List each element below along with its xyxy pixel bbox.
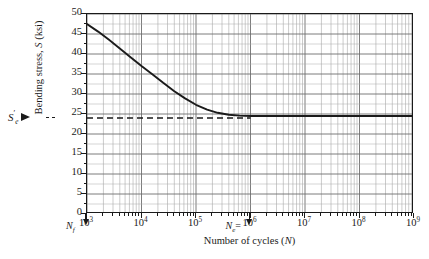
x-tick-exponent: 7 [307, 216, 311, 224]
x-axis-minor-tick-mark [135, 213, 136, 216]
x-axis-minor-tick-mark [237, 213, 238, 216]
x-axis-minor-tick-mark [385, 213, 386, 216]
x-axis-minor-tick-mark [320, 213, 321, 216]
chart-figure: 05101520253035404550 Bending stress, S (… [0, 0, 429, 259]
x-tick-mantissa: 10 [406, 217, 417, 228]
x-axis-minor-tick-mark [353, 213, 354, 216]
x-axis-title-symbol: N [285, 235, 292, 246]
x-axis-minor-tick-mark [233, 213, 234, 216]
y-axis-title-text: Bending stress, [33, 48, 44, 115]
x-axis-minor-tick-mark [401, 213, 402, 216]
endurance-cycles-down-arrow-icon [246, 219, 252, 225]
y-axis-title: Bending stress, S (ksi) [33, 0, 44, 153]
arrow-right-icon [21, 113, 30, 121]
endurance-cycles-label: Ne= [226, 220, 241, 231]
x-axis-minor-tick-mark [228, 213, 229, 216]
x-axis-minor-tick-mark [128, 213, 129, 216]
x-axis-minor-tick-mark [167, 213, 168, 216]
x-axis-minor-tick-mark [296, 213, 297, 216]
x-axis-minor-tick-mark [190, 213, 191, 216]
x-axis-minor-tick-mark [405, 213, 406, 216]
x-axis-minor-tick-mark [292, 213, 293, 216]
finite-life-start-down-arrow-icon [83, 219, 89, 225]
finite-life-start-symbol: N [66, 220, 73, 231]
x-axis-title-tail: ) [292, 235, 296, 246]
x-axis-tick-label: 105 [188, 217, 202, 229]
se-prime: ′ [14, 109, 16, 118]
x-tick-exponent: 3 [89, 216, 93, 224]
endurance-limit-label: S′e [8, 111, 18, 123]
x-axis-minor-tick-mark [288, 213, 289, 216]
x-axis-minor-tick-mark [397, 213, 398, 216]
plot-area [86, 13, 413, 213]
x-axis-minor-tick-mark [124, 213, 125, 216]
x-tick-exponent: 8 [362, 216, 366, 224]
x-axis-minor-tick-mark [391, 213, 392, 216]
x-axis-minor-tick-mark [211, 213, 212, 216]
x-axis-minor-tick-mark [179, 213, 180, 216]
x-axis-minor-tick-mark [193, 213, 194, 216]
x-axis-minor-tick-mark [375, 213, 376, 216]
x-axis-minor-tick-mark [173, 213, 174, 216]
x-axis-minor-tick-mark [183, 213, 184, 216]
x-axis-minor-tick-mark [282, 213, 283, 216]
x-axis-minor-tick-mark [266, 213, 267, 216]
x-axis-minor-tick-mark [102, 213, 103, 216]
x-axis-minor-tick-mark [302, 213, 303, 216]
x-tick-exponent: 9 [416, 216, 420, 224]
x-axis-minor-tick-mark [342, 213, 343, 216]
x-axis-minor-tick-mark [356, 213, 357, 216]
endurance-limit-dash-leader [46, 117, 56, 118]
x-axis-minor-tick-mark [132, 213, 133, 216]
data-curves [87, 14, 413, 213]
y-axis-title-unit: (ksi) [33, 21, 44, 43]
finite-life-start-label: Nf [66, 220, 75, 231]
x-axis-title: Number of cycles (N) [86, 235, 413, 246]
se-subscript: e [15, 118, 18, 126]
x-axis-title-text: Number of cycles ( [204, 235, 285, 246]
x-axis-minor-tick-mark [276, 213, 277, 216]
finite-life-start-subscript: f [73, 226, 75, 234]
x-tick-exponent: 4 [144, 216, 148, 224]
x-axis-minor-tick-mark [221, 213, 222, 216]
x-axis-minor-tick-mark [157, 213, 158, 216]
endurance-cycles-equals: = [235, 220, 241, 231]
x-tick-exponent: 5 [198, 216, 202, 224]
x-axis-minor-tick-mark [138, 213, 139, 216]
x-tick-mantissa: 10 [188, 217, 199, 228]
x-tick-mantissa: 10 [133, 217, 144, 228]
x-axis-minor-tick-mark [337, 213, 338, 216]
endurance-limit-annotation: S′e [8, 110, 30, 124]
x-tick-exponent: 6 [253, 216, 257, 224]
x-axis-tick-labels: 103104105106107108109 [0, 217, 429, 233]
x-axis-minor-tick-mark [241, 213, 242, 216]
x-axis-minor-tick-mark [187, 213, 188, 216]
x-axis-minor-tick-mark [408, 213, 409, 216]
x-tick-mantissa: 10 [351, 217, 362, 228]
x-axis-minor-tick-mark [346, 213, 347, 216]
x-tick-mantissa: 10 [297, 217, 308, 228]
x-axis-minor-tick-mark [330, 213, 331, 216]
x-axis-minor-tick-mark [244, 213, 245, 216]
y-axis-title-symbol: S [33, 42, 44, 47]
x-axis-minor-tick-mark [350, 213, 351, 216]
x-axis-tick-label: 107 [297, 217, 311, 229]
x-axis-tick-label: 109 [406, 217, 420, 229]
x-axis-tick-label: 108 [351, 217, 365, 229]
x-axis-minor-tick-mark [119, 213, 120, 216]
x-axis-minor-tick-mark [112, 213, 113, 216]
x-axis-minor-tick-mark [299, 213, 300, 216]
x-axis-tick-label: 104 [133, 217, 147, 229]
x-axis-minor-tick-mark [411, 213, 412, 216]
